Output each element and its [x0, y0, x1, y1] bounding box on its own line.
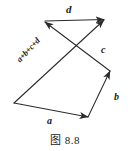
vector-d-line	[45, 20, 104, 22]
figure-caption: 图 8.8	[0, 131, 130, 147]
vector-label-a: a	[47, 116, 52, 126]
vector-figure: d c b a a+b+c+d 图 8.8	[0, 0, 130, 151]
vector-diagram-canvas	[0, 0, 130, 131]
vector-label-b: b	[114, 92, 119, 102]
vector-b-line	[88, 71, 110, 117]
vector-label-c: c	[101, 45, 105, 55]
vector-label-d: d	[66, 4, 72, 15]
